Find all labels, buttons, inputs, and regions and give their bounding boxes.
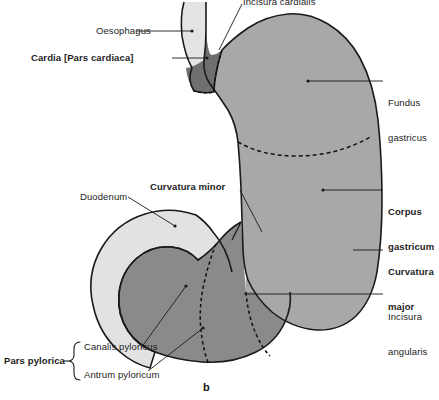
- leader-dot-oesophagus: [190, 29, 193, 32]
- label-duodenum: Duodenum: [80, 191, 127, 203]
- leader-dot-antrum: [201, 326, 204, 329]
- leader-dot-canalis: [184, 284, 187, 287]
- label-fundus-gastricus-line1: Fundus: [388, 97, 427, 109]
- label-oesophagus: Oesophagus: [96, 25, 151, 37]
- label-fundus-gastricus-line2: gastricus: [388, 132, 427, 144]
- label-incisura-angularis-line1: Incisura: [388, 311, 427, 323]
- pars-pylorica-brace: [69, 342, 80, 380]
- label-incisura-cardialis: Incisura cardialis: [243, 0, 316, 8]
- label-curvatura-major-line1: Curvatura: [388, 266, 434, 278]
- label-curvatura-minor: Curvatura minor: [150, 181, 225, 193]
- leader-dot-corpus: [321, 188, 324, 191]
- leader-dot-fundus: [306, 79, 309, 82]
- label-antrum-pyloricum: Antrum pyloricum: [84, 369, 160, 381]
- label-corpus-gastricum-line1: Corpus: [388, 206, 434, 218]
- stomach-anatomy-figure: Incisura cardialis Oesophagus Cardia [Pa…: [0, 0, 439, 400]
- label-incisura-angularis-line2: angularis: [388, 346, 427, 358]
- panel-label-b: b: [203, 381, 210, 393]
- leader-dot-duodenum: [173, 224, 176, 227]
- label-incisura-angularis: Incisura angularis: [388, 288, 427, 380]
- leader-dot-cardia: [205, 56, 208, 59]
- label-cardia: Cardia [Pars cardiaca]: [31, 52, 134, 64]
- label-canalis-pyloricus: Canalis pyloricus: [84, 341, 158, 353]
- label-fundus-gastricus: Fundus gastricus: [388, 74, 427, 166]
- label-pars-pylorica: Pars pylorica: [4, 355, 65, 367]
